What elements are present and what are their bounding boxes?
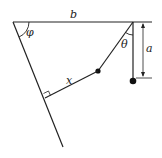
label-phi: φ xyxy=(26,26,34,39)
arrow-down-icon xyxy=(141,72,145,77)
slanted-line xyxy=(13,22,63,147)
label-b: b xyxy=(70,8,77,21)
hanging-bob xyxy=(130,78,137,85)
diagram-canvas: b a θ φ x xyxy=(0,0,162,158)
label-theta: θ xyxy=(121,38,128,51)
right-angle-marker xyxy=(44,91,51,96)
label-a: a xyxy=(146,42,153,55)
theta-angle-arc xyxy=(126,33,134,36)
angled-string xyxy=(98,22,133,71)
label-x: x xyxy=(66,74,73,87)
arrow-up-icon xyxy=(141,23,145,28)
